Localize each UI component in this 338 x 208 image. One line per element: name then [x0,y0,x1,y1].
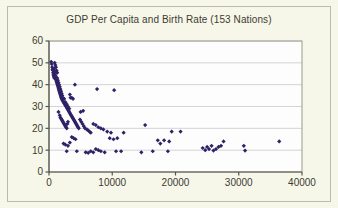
y-tick-label-40: 40 [32,79,44,90]
chart-figure: GDP Per Capita and Birth Rate (153 Natio… [0,0,338,208]
y-tick-label-20: 20 [32,123,44,134]
y-tick-label-0: 0 [37,166,43,177]
y-tick-label-10: 10 [32,145,44,156]
scatter-plot: 0102030405060010000200003000040000 [0,0,338,208]
y-tick-label-50: 50 [32,57,44,68]
y-tick-label-30: 30 [32,101,44,112]
x-tick-label-40000: 40000 [288,177,316,188]
x-tick-label-0: 0 [46,177,52,188]
x-tick-label-30000: 30000 [225,177,253,188]
x-tick-label-10000: 10000 [98,177,126,188]
y-tick-label-60: 60 [32,35,44,46]
x-tick-label-20000: 20000 [162,177,190,188]
